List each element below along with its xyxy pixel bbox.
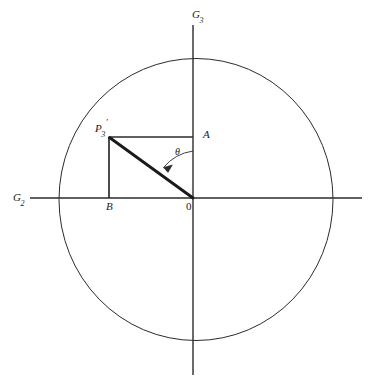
point-label-p3-prime: ′ [106,117,108,127]
axis-label-g3: G3 [192,9,204,23]
origin-label: 0 [186,201,192,212]
unit-circle [59,59,333,341]
point-label-a: A [203,129,210,140]
angle-label-theta: θ [175,147,180,157]
point-label-p3: P3′ [95,120,108,137]
axis-label-g2: G2 [13,192,25,206]
geometry-figure: G3 G2 P3′ A B 0 θ [0,0,374,384]
diagram-canvas [0,0,374,384]
point-label-p3-subscript: 3 [101,130,105,139]
segment-origin-to-p3 [110,138,194,199]
axis-label-g3-subscript: 3 [199,16,203,25]
point-label-b: B [106,201,113,212]
axis-label-g2-subscript: 2 [20,199,24,208]
